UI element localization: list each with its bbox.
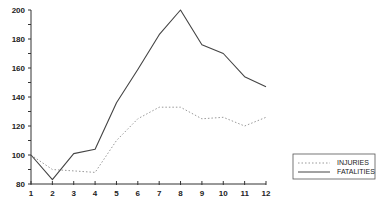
x-tick-label: 9 — [200, 189, 205, 198]
x-tick-label: 8 — [178, 189, 183, 198]
y-axis: 80100120140160180200 — [12, 6, 31, 189]
x-tick-label: 6 — [136, 189, 141, 198]
legend-box — [293, 154, 375, 179]
legend-label-fatalities: FATALITIES — [337, 168, 375, 175]
series-line-fatalities — [31, 10, 266, 180]
y-tick-label: 180 — [12, 35, 26, 44]
x-tick-label: 12 — [262, 189, 271, 198]
y-tick-label: 120 — [12, 122, 26, 131]
y-tick-label: 160 — [12, 64, 26, 73]
x-tick-label: 7 — [157, 189, 162, 198]
legend: INJURIES FATALITIES — [293, 154, 375, 179]
x-tick-label: 4 — [93, 189, 98, 198]
x-tick-label: 1 — [29, 189, 34, 198]
y-tick-label: 80 — [16, 180, 25, 189]
x-axis: 123456789101112 — [29, 181, 271, 198]
series-group — [31, 10, 266, 180]
y-tick-label: 100 — [12, 151, 26, 160]
x-tick-label: 3 — [72, 189, 77, 198]
y-tick-label: 140 — [12, 93, 26, 102]
line-chart: 80100120140160180200 123456789101112 INJ… — [0, 0, 384, 209]
x-tick-label: 5 — [114, 189, 119, 198]
x-tick-label: 10 — [219, 189, 228, 198]
legend-label-injuries: INJURIES — [337, 159, 369, 166]
x-tick-label: 2 — [50, 189, 55, 198]
x-tick-label: 11 — [240, 189, 249, 198]
y-tick-label: 200 — [12, 6, 26, 15]
